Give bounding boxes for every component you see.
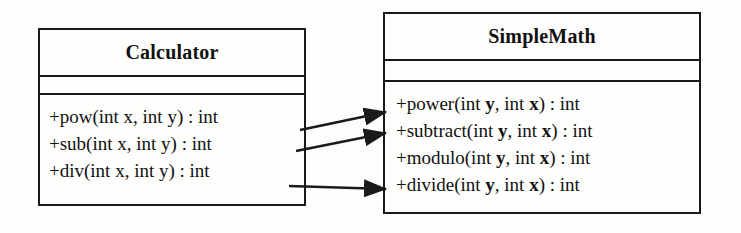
connector-sub-to-subtract[interactable] — [296, 133, 386, 151]
method-modulo-post: ) : int — [549, 147, 590, 168]
method-subtract-pre: +subtract(int — [396, 120, 498, 141]
class-box-simplemath[interactable]: SimpleMath +power(int y, int x) : int +s… — [383, 12, 701, 214]
method-power-param-x: x — [529, 93, 539, 114]
method-subtract-param-y: y — [498, 120, 508, 141]
method-divide-post: ) : int — [539, 174, 580, 195]
class-name-calculator: Calculator — [40, 30, 304, 77]
method-calculator-div[interactable]: +div(int x, int y) : int — [40, 157, 304, 184]
method-compartment-simplemath: +power(int y, int x) : int +subtract(int… — [385, 82, 699, 212]
method-modulo-param-x: x — [540, 147, 550, 168]
method-modulo-pre: +modulo(int — [396, 147, 496, 168]
method-subtract-mid: , int — [508, 120, 542, 141]
method-calculator-sub[interactable]: +sub(int x, int y) : int — [40, 130, 304, 157]
method-power-pre: +power(int — [396, 93, 485, 114]
method-power-mid: , int — [495, 93, 529, 114]
method-divide-param-x: x — [529, 174, 539, 195]
method-calculator-pow[interactable]: +pow(int x, int y) : int — [40, 103, 304, 130]
method-subtract-param-x: x — [542, 120, 552, 141]
connector-pow-to-power[interactable] — [300, 112, 386, 130]
class-name-simplemath: SimpleMath — [385, 14, 699, 61]
uml-class-diagram: Calculator +pow(int x, int y) : int +sub… — [0, 0, 741, 233]
method-divide-mid: , int — [495, 174, 529, 195]
method-divide-pre: +divide(int — [396, 174, 485, 195]
method-compartment-calculator: +pow(int x, int y) : int +sub(int x, int… — [40, 95, 304, 204]
method-power-post: ) : int — [539, 93, 580, 114]
method-modulo-param-y: y — [496, 147, 506, 168]
attribute-compartment-calculator — [40, 77, 304, 95]
method-subtract-post: ) : int — [551, 120, 592, 141]
attribute-compartment-simplemath — [385, 61, 699, 82]
method-power-param-y: y — [485, 93, 495, 114]
class-box-calculator[interactable]: Calculator +pow(int x, int y) : int +sub… — [38, 28, 306, 206]
method-modulo-mid: , int — [505, 147, 539, 168]
method-divide-param-y: y — [485, 174, 495, 195]
method-simplemath-modulo[interactable]: +modulo(int y, int x) : int — [385, 144, 699, 171]
method-simplemath-power[interactable]: +power(int y, int x) : int — [385, 90, 699, 117]
method-simplemath-divide[interactable]: +divide(int y, int x) : int — [385, 171, 699, 198]
method-simplemath-subtract[interactable]: +subtract(int y, int x) : int — [385, 117, 699, 144]
